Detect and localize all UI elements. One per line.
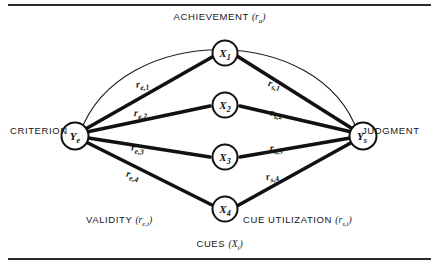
node-cue-4: X4 [213,197,238,222]
achievement-label: ACHIEVEMENT (ra) [174,11,266,24]
edge-label-utilization-2-subscript: s,2 [274,112,283,121]
validity-subscript: e,i [142,220,149,227]
node-cue-1-subscript: 1 [227,53,231,62]
cues-label: CUES (Xi) [196,238,242,251]
cues-text: CUES [196,238,225,249]
node-cue-3: X3 [213,145,238,170]
edge-label-utilization-3-subscript: s,3 [274,147,283,156]
node-cue-4-subscript: 4 [226,209,231,218]
achievement-close: ) [262,12,265,22]
edge-criterion-cue-4 [82,140,214,206]
edge-label-validity-4-subscript: e,4 [128,173,139,184]
edge-label-validity-3-subscript: e,3 [134,147,144,157]
node-criterion-subscript: e [77,136,81,145]
edge-label-utilization-4-subscript: s,4 [270,174,280,185]
edge-label-validity-3: re,3 [131,142,145,157]
edge-label-utilization-3: rs,3 [270,142,283,157]
node-judgment-subscript: s [363,136,367,145]
edge-label-validity-1-subscript: e,1 [140,82,150,92]
edge-cue-3-judgment [240,137,356,157]
edge-cue-4-judgment [237,140,356,206]
edge-label-validity-2-subscript: e,2 [138,112,148,121]
node-cue-1: X1 [213,41,238,66]
validity-text: VALIDITY [86,214,132,225]
judgment-label: JUDGMENT [362,125,420,136]
cue-utilization-label: CUE UTILIZATION (rs,i) [243,214,352,227]
cue-utilization-close: ) [348,215,351,225]
edge-label-utilization-1: rs,1 [267,77,282,93]
cues-symbol: (X [229,239,238,249]
validity-label: VALIDITY (re,i) [86,214,152,227]
cues-close: ) [239,239,242,249]
edge-criterion-cue-3 [82,137,210,157]
edge-label-utilization-1-subscript: s,1 [271,83,281,93]
edge-label-validity-2: re,2 [134,107,148,122]
node-cue-2: X2 [213,93,238,118]
node-cue-2-subscript: 2 [226,105,231,114]
criterion-label: CRITERION [10,125,68,136]
lens-model-figure: Ye Ys X1 X2 X3 [0,0,439,266]
cue-utilization-text: CUE UTILIZATION [243,214,332,225]
edge-label-utilization-2: rs,2 [270,107,283,122]
judgment-text: JUDGMENT [362,125,420,136]
achievement-text: ACHIEVEMENT [174,11,249,22]
criterion-text: CRITERION [10,125,68,136]
edge-label-validity-1: re,1 [135,77,149,92]
validity-close: ) [149,215,152,225]
edge-label-utilization-4: rs,4 [265,169,280,185]
node-cue-3-subscript: 3 [226,157,231,166]
